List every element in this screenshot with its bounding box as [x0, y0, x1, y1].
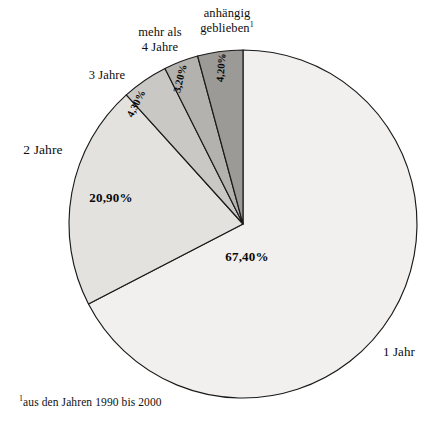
category-label-more-than-four-years: mehr als 4 Jahre	[121, 25, 199, 54]
footnote-reference-marker: 1	[250, 19, 254, 28]
category-label-pending-line1: anhängig	[204, 6, 251, 20]
category-label-more-than-four-years-line1: mehr als	[138, 25, 182, 39]
value-label-one-year-text: 67,40%	[225, 249, 268, 264]
category-label-two-years: 2 Jahre	[10, 143, 76, 158]
category-label-three-years: 3 Jahre	[77, 68, 137, 83]
pie-chart-figure: anhängig geblieben1 mehr als 4 Jahre 3 J…	[0, 0, 448, 423]
footnote-text: aus den Jahren 1990 bis 2000	[23, 396, 162, 408]
category-label-one-year: 1 Jahr	[383, 345, 438, 360]
value-label-two-years: 20,90%	[69, 190, 153, 206]
footnote: 1aus den Jahren 1990 bis 2000	[19, 396, 162, 408]
value-label-two-years-text: 20,90%	[89, 190, 132, 205]
category-label-one-year-text: 1 Jahr	[383, 344, 415, 359]
value-label-one-year: 67,40%	[207, 249, 287, 265]
category-label-three-years-text: 3 Jahre	[89, 68, 125, 82]
category-label-pending-line2: geblieben	[200, 21, 250, 35]
category-label-more-than-four-years-line2: 4 Jahre	[142, 40, 178, 54]
category-label-two-years-text: 2 Jahre	[23, 142, 62, 157]
